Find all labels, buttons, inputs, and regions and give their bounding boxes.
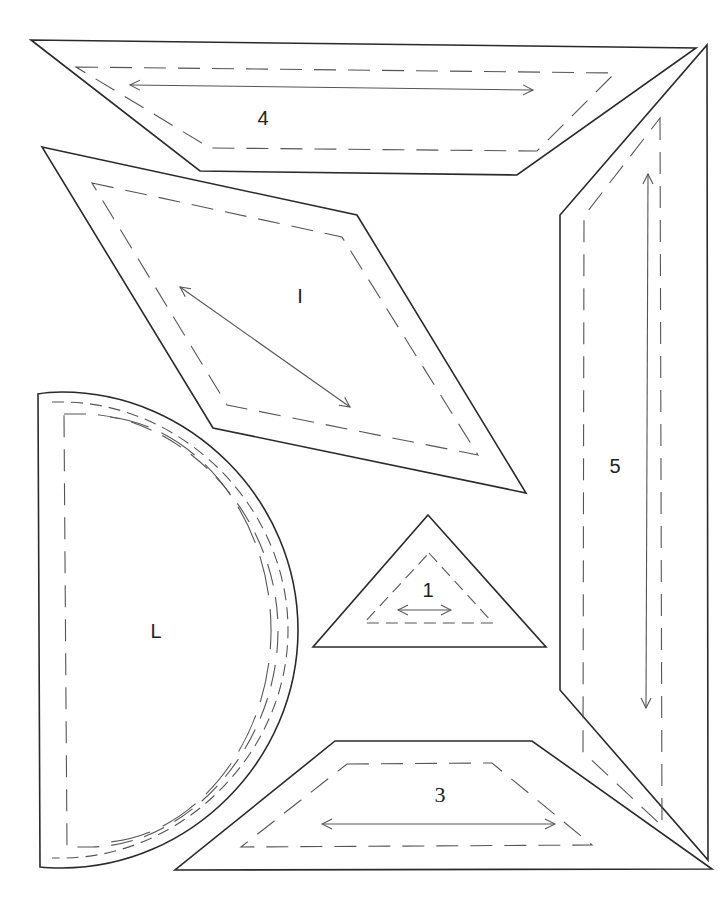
- piece-l-label: L: [150, 620, 161, 642]
- piece-l[interactable]: L: [38, 392, 298, 868]
- piece-4-label: 4: [257, 107, 268, 129]
- piece-5-grain-arrow-icon: [646, 174, 648, 708]
- piece-l-inner-sew-line-2: [110, 417, 271, 842]
- piece-i-cut-line: [42, 147, 526, 493]
- piece-5-label: 5: [609, 455, 620, 477]
- piece-l-inner-sew-line: [64, 414, 278, 847]
- piece-i[interactable]: I: [42, 147, 526, 493]
- piece-4-cut-line: [31, 40, 696, 175]
- pattern-sheet: 4 I 5 L 1 3: [0, 0, 719, 900]
- piece-i-grain-arrow-icon: [180, 287, 350, 407]
- piece-3[interactable]: 3: [175, 741, 712, 870]
- piece-5[interactable]: 5: [560, 45, 708, 860]
- piece-3-label: 3: [435, 782, 446, 807]
- piece-4[interactable]: 4: [31, 40, 696, 175]
- piece-l-outer-sew-line: [52, 402, 288, 858]
- piece-4-grain-arrow-icon: [130, 85, 533, 90]
- piece-5-cut-line: [560, 45, 708, 860]
- piece-3-sew-line: [241, 763, 592, 847]
- piece-5-sew-line: [583, 118, 662, 826]
- piece-l-cut-line: [38, 392, 298, 868]
- piece-1-label: 1: [422, 579, 433, 601]
- piece-1[interactable]: 1: [313, 515, 546, 647]
- piece-i-label: I: [297, 285, 303, 307]
